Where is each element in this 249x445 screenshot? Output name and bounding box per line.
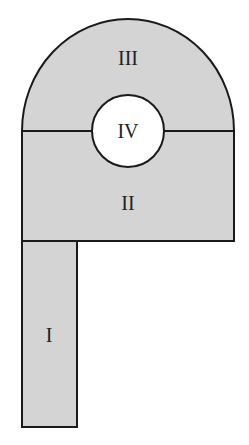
label-iv: IV xyxy=(117,120,139,142)
composite-shape-diagram: III IV II I xyxy=(0,0,249,445)
label-i: I xyxy=(46,324,53,346)
label-ii: II xyxy=(121,192,134,214)
label-iii: III xyxy=(118,47,138,69)
